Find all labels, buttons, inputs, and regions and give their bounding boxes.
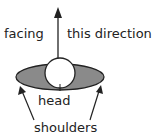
shoulders-label: shoulders — [34, 120, 97, 135]
head-shoulders-diagram: facing this direction head shoulders — [0, 0, 154, 139]
head-label: head — [38, 93, 70, 108]
direction-label: this direction — [67, 26, 152, 41]
facing-arrow — [54, 7, 62, 62]
head-circle — [45, 58, 75, 88]
shoulder-arrow-right — [90, 85, 103, 120]
shoulder-arrow-left — [18, 86, 34, 120]
facing-label: facing — [4, 26, 44, 41]
